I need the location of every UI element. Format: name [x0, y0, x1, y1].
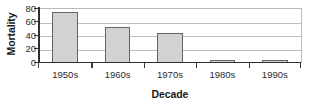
y-axis-title: Mortality: [4, 4, 18, 64]
x-tick-label-1980s: 1980s: [196, 69, 248, 81]
x-tick-mark-4: [249, 63, 250, 68]
bar-1960s: [105, 27, 131, 63]
bar-1950s: [52, 12, 78, 63]
bar-chart-figure: Mortality 0 20 40 60 80 1950s 1960s 1970…: [0, 0, 310, 111]
x-tick-mark-0: [38, 63, 39, 68]
x-tick-mark-3: [196, 63, 197, 68]
x-tick-label-1970s: 1970s: [144, 69, 196, 81]
bar-1970s: [157, 33, 183, 63]
x-axis-tick-labels: 1950s 1960s 1970s 1980s 1990s: [39, 69, 301, 83]
x-tick-mark-5: [300, 63, 301, 68]
y-axis-spine: [38, 7, 40, 63]
x-tick-label-1950s: 1950s: [39, 69, 91, 81]
x-axis-spine: [38, 62, 301, 64]
gridline-60: [39, 23, 301, 24]
plot-area: [39, 8, 302, 63]
x-axis-title: Decade: [39, 88, 301, 100]
x-tick-mark-2: [144, 63, 145, 68]
x-tick-mark-1: [91, 63, 92, 68]
x-tick-label-1960s: 1960s: [91, 69, 143, 81]
x-tick-label-1990s: 1990s: [249, 69, 301, 81]
